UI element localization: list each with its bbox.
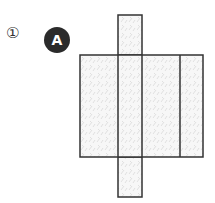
- net-diagram: [0, 0, 215, 203]
- bottom-face: [118, 157, 142, 197]
- top-face: [118, 15, 142, 55]
